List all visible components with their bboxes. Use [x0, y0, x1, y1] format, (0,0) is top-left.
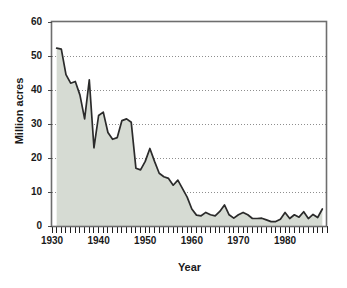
y-tick-label: 40 — [16, 85, 42, 95]
y-axis-title: Million acres — [13, 56, 25, 166]
x-tick-label: 1960 — [172, 236, 212, 246]
x-axis-title: Year — [51, 261, 328, 273]
x-tick-label: 1930 — [32, 236, 72, 246]
x-tick-label: 1980 — [265, 236, 305, 246]
y-tick-label: 50 — [16, 51, 42, 61]
y-tick-label: 0 — [16, 221, 42, 231]
x-tick-label: 1940 — [79, 236, 119, 246]
y-tick-label: 60 — [16, 17, 42, 27]
y-tick-label: 20 — [16, 153, 42, 163]
chart-figure: Million acres Year 0102030405060 1930194… — [0, 0, 347, 288]
y-tick-label: 10 — [16, 187, 42, 197]
y-tick-label: 30 — [16, 119, 42, 129]
x-tick-label: 1950 — [125, 236, 165, 246]
data-area-fill — [57, 48, 323, 226]
x-tick-label: 1970 — [218, 236, 258, 246]
